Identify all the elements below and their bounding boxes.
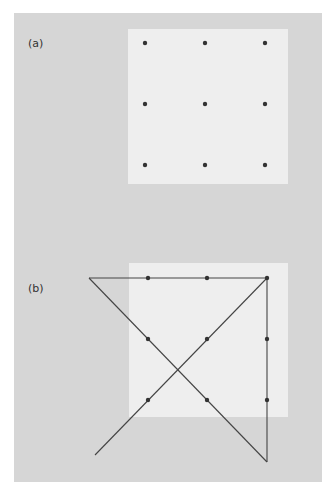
dot bbox=[143, 163, 147, 167]
dot bbox=[143, 41, 147, 45]
dot bbox=[203, 163, 207, 167]
dot bbox=[146, 276, 150, 280]
dot bbox=[263, 163, 267, 167]
dot bbox=[146, 337, 150, 341]
dot bbox=[203, 102, 207, 106]
dot bbox=[205, 337, 209, 341]
dot bbox=[146, 398, 150, 402]
dot bbox=[143, 102, 147, 106]
diagram-overlay bbox=[0, 0, 332, 492]
dot bbox=[263, 41, 267, 45]
dot bbox=[205, 398, 209, 402]
dot bbox=[265, 337, 269, 341]
connecting-line bbox=[95, 278, 267, 455]
dot bbox=[265, 276, 269, 280]
dot bbox=[203, 41, 207, 45]
dot bbox=[263, 102, 267, 106]
dot bbox=[265, 398, 269, 402]
dot bbox=[205, 276, 209, 280]
